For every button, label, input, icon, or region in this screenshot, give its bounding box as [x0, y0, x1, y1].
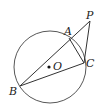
- label-o: O: [53, 60, 62, 73]
- label-c: C: [86, 57, 95, 70]
- label-a: A: [63, 25, 72, 38]
- label-p: P: [85, 9, 94, 22]
- segment-pb: [20, 21, 90, 86]
- segment-bc: [20, 63, 84, 86]
- center-point-o: [47, 65, 50, 68]
- label-b: B: [8, 85, 17, 98]
- geometry-diagram: P A O C B: [0, 0, 100, 107]
